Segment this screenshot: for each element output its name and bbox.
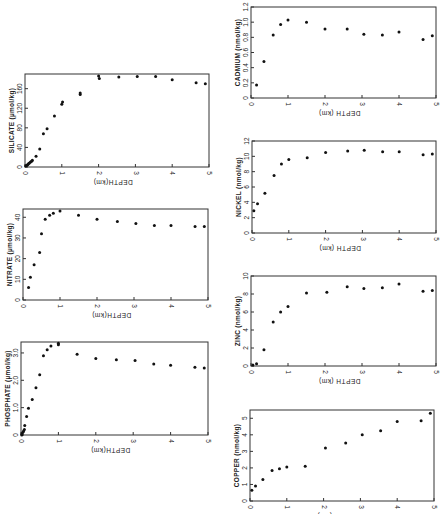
data-point [361, 433, 364, 436]
data-point [254, 485, 257, 488]
x-tick-label: 1 [284, 505, 291, 509]
y-tick-label: 2 [241, 466, 248, 470]
y-tick-label: 4 [241, 433, 248, 437]
data-point [420, 419, 423, 422]
data-point [396, 420, 399, 423]
x-tick-label: 0 [247, 505, 254, 509]
y-tick-label: 0 [241, 499, 248, 503]
x-tick-label: 4 [394, 505, 401, 509]
data-point [324, 447, 327, 450]
x-tick-label: 3 [358, 505, 365, 509]
y-tick-label: 1 [241, 482, 248, 486]
data-point [278, 467, 281, 470]
data-point [271, 469, 274, 472]
figure-caption-illegible [438, 20, 446, 500]
plot-frame [250, 410, 434, 501]
y-axis-label: COPPER (nmol/kg) [233, 424, 241, 487]
x-tick-label: 5 [431, 505, 438, 509]
data-point [285, 466, 288, 469]
data-point [379, 429, 382, 432]
data-point [429, 412, 432, 415]
x-tick-label: 2 [321, 505, 328, 509]
data-point [261, 478, 264, 481]
y-tick-label: 5 [241, 416, 248, 420]
data-point [344, 442, 347, 445]
data-point [250, 489, 253, 492]
data-point [304, 465, 307, 468]
y-tick-label: 3 [241, 449, 248, 453]
